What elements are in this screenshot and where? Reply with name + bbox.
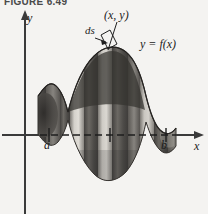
surface-of-revolution-figure (0, 0, 208, 214)
x-axis-label: x (194, 140, 199, 152)
arc-element-label: ds (85, 25, 95, 36)
y-axis-label: y (27, 12, 32, 24)
figure-caption: FIGURE 6.49 (4, 0, 67, 7)
lower-limit-label: a (44, 139, 50, 151)
point-label: (x, y) (104, 9, 129, 21)
upper-limit-label: b (161, 139, 167, 151)
curve-label: y = f(x) (140, 38, 176, 50)
